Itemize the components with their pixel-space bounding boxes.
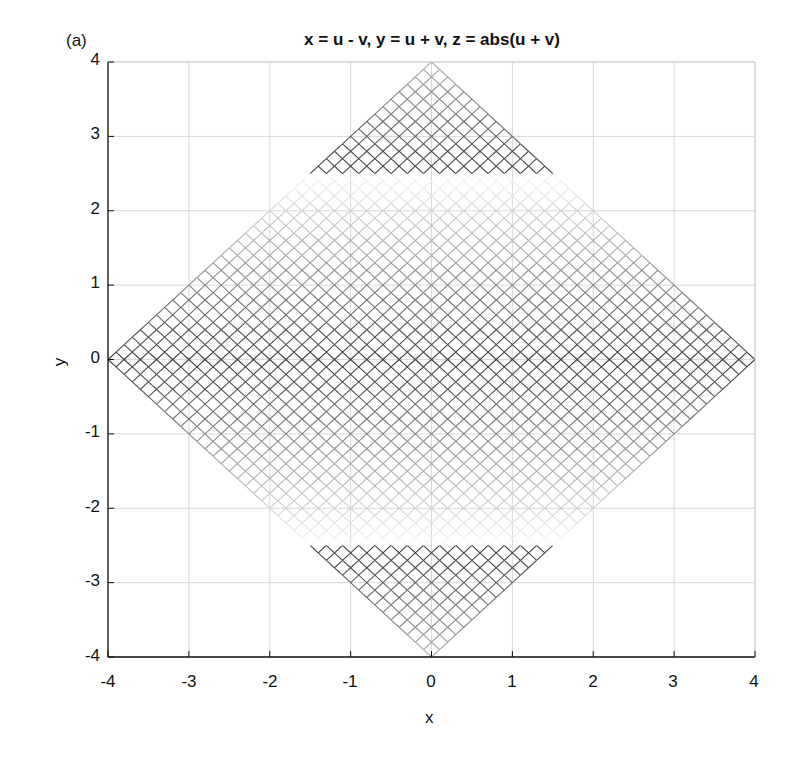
plot-area (0, 0, 800, 767)
mesh-surface (108, 62, 755, 657)
